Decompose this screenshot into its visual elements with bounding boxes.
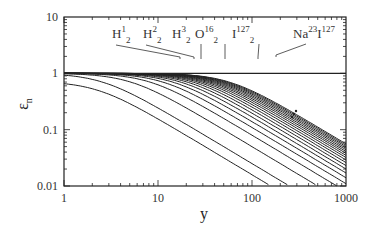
y-tick-0.1: 0.1 [43, 123, 58, 137]
annotation-label: H12 [112, 24, 130, 45]
curve-13 [64, 73, 346, 155]
curve-9 [64, 73, 346, 165]
x-tick-100: 100 [243, 191, 261, 205]
axis-ticks [64, 17, 346, 186]
annotation-label: H32 [172, 24, 190, 45]
ellipsis-dot [295, 110, 297, 112]
curve-family [64, 73, 346, 186]
y-tick-10: 10 [46, 10, 58, 24]
curve-14 [64, 73, 346, 153]
y-tick-0.01: 0.01 [37, 179, 58, 193]
annotations: H12H22H32O162I1272Na23I127 [112, 24, 336, 118]
chart: H12H22H32O162I1272Na23I127 10 1 0.1 0.01… [0, 0, 372, 230]
svg-text:εn: εn [14, 98, 34, 110]
annotation-pointer [276, 44, 306, 57]
annotation-label: I1272 [232, 24, 254, 45]
annotation-pointer [116, 45, 180, 59]
x-tick-1000: 1000 [334, 191, 358, 205]
y-axis-label: εn [14, 98, 34, 110]
annotation-pointer [258, 44, 259, 59]
curve-3 [64, 74, 315, 185]
x-tick-10: 10 [152, 191, 164, 205]
x-tick-1: 1 [61, 191, 67, 205]
y-tick-1: 1 [52, 66, 58, 80]
ellipsis-dot [293, 113, 295, 115]
annotation-label: O162 [195, 24, 218, 45]
annotation-label: H22 [143, 24, 161, 45]
annotation-label: Na23I127 [293, 24, 336, 41]
plot-frame [64, 17, 346, 186]
ellipsis-dot [291, 116, 293, 118]
x-axis-label: y [200, 205, 208, 223]
